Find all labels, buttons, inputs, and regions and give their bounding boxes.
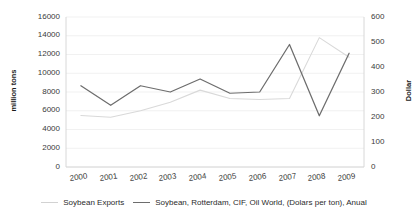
gridlines — [66, 17, 364, 167]
legend-item-price[interactable]: Soybean, Rotterdam, CIF, Oil World, (Dol… — [133, 198, 367, 207]
series-line-price — [81, 45, 349, 116]
legend-swatch-price — [133, 202, 150, 203]
legend-label-price: Soybean, Rotterdam, CIF, Oil World, (Dol… — [155, 198, 367, 207]
legend-item-exports[interactable]: Soybean Exports — [41, 198, 124, 207]
series-line-exports — [81, 38, 349, 118]
legend-swatch-exports — [41, 202, 58, 203]
series-lines — [81, 38, 349, 118]
chart-legend: Soybean Exports Soybean, Rotterdam, CIF,… — [0, 198, 408, 207]
legend-label-exports: Soybean Exports — [63, 198, 124, 207]
